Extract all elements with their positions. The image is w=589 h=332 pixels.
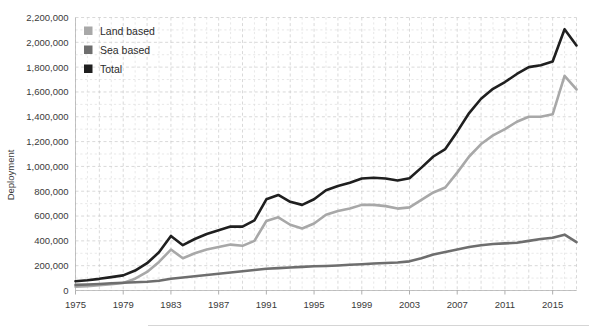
x-tick-label: 1975 [65,299,86,310]
x-tick-label: 1995 [304,299,325,310]
y-tick-label: 200,000 [34,260,68,271]
x-tick-label: 1991 [256,299,277,310]
y-tick-label: 800,000 [34,186,68,197]
x-tick-label: 2011 [495,299,515,310]
legend-swatch [84,27,93,36]
y-tick-label: 1,200,000 [26,136,68,147]
legend-label: Sea based [100,44,150,56]
y-axis-title: Deployment [5,149,16,200]
y-tick-label: 1,800,000 [26,62,68,73]
x-tick-label: 1987 [208,299,229,310]
y-tick-label: 1,600,000 [26,86,68,97]
chart-container: 0200,000400,000600,000800,0001,000,0001,… [0,0,589,332]
x-tick-label: 2003 [399,299,420,310]
y-tick-label: 1,000,000 [26,161,68,172]
y-tick-label: 2,200,000 [26,12,68,23]
x-tick-label: 2015 [542,299,563,310]
y-tick-label: 600,000 [34,210,68,221]
deployment-line-chart: 0200,000400,000600,000800,0001,000,0001,… [0,0,589,332]
x-tick-label: 2007 [447,299,468,310]
legend-swatch [84,46,93,55]
x-tick-label: 1983 [160,299,181,310]
x-tick-label: 1999 [351,299,372,310]
y-tick-label: 1,400,000 [26,111,68,122]
legend-label: Land based [100,25,155,37]
y-tick-label: 2,000,000 [26,37,68,48]
y-tick-label: 0 [63,285,68,296]
y-tick-label: 400,000 [34,235,68,246]
legend-swatch [84,65,93,74]
legend-label: Total [100,63,122,75]
x-tick-label: 1979 [113,299,134,310]
